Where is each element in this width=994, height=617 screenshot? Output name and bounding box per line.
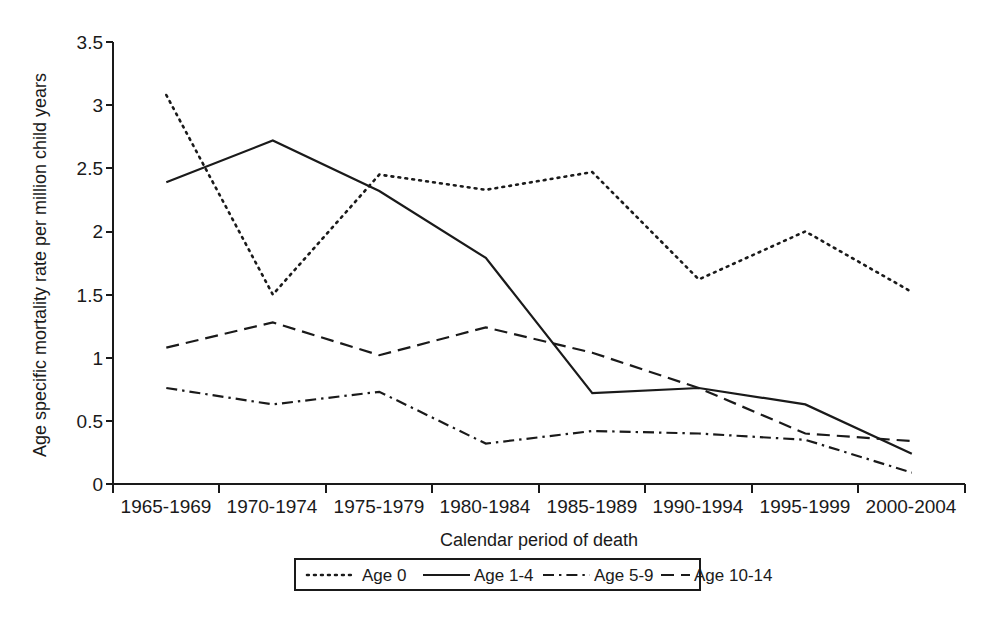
x-tick-label: 2000-2004 <box>866 496 957 517</box>
y-tick-label: 2 <box>92 221 103 242</box>
y-tick-label: 0 <box>92 474 103 495</box>
y-axis-ticks <box>106 42 113 484</box>
chart-figure: Age specific mortality rate per million … <box>0 0 994 617</box>
series-line-age-10-14 <box>166 322 912 441</box>
legend-label-age-5-9: Age 5-9 <box>594 566 654 585</box>
x-axis-tick-labels: 1965-1969 1970-1974 1975-1979 1980-1984 … <box>121 496 957 517</box>
x-tick-label: 1985-1989 <box>547 496 638 517</box>
x-tick-label: 1990-1994 <box>653 496 744 517</box>
y-tick-label: 1.5 <box>77 285 103 306</box>
series-lines <box>166 95 912 473</box>
legend-label-age-10-14: Age 10-14 <box>694 566 772 585</box>
y-tick-label: 2.5 <box>77 158 103 179</box>
x-tick-label: 1975-1979 <box>334 496 425 517</box>
y-tick-label: 0.5 <box>77 411 103 432</box>
x-axis-title: Calendar period of death <box>440 530 638 550</box>
series-line-age-0 <box>166 95 912 295</box>
y-tick-label: 3 <box>92 95 103 116</box>
x-tick-label: 1995-1999 <box>760 496 851 517</box>
x-tick-label: 1980-1984 <box>440 496 531 517</box>
y-tick-label: 1 <box>92 348 103 369</box>
y-axis-tick-labels: 3.5 3 2.5 2 1.5 1 0.5 0 <box>77 32 103 495</box>
x-axis-ticks <box>113 484 965 493</box>
x-tick-label: 1965-1969 <box>121 496 212 517</box>
chart-canvas: Age specific mortality rate per million … <box>0 0 994 617</box>
x-tick-label: 1970-1974 <box>227 496 318 517</box>
y-axis-title: Age specific mortality rate per million … <box>30 73 50 457</box>
chart-legend: Age 0 Age 1-4 Age 5-9 Age 10-14 <box>295 559 772 590</box>
y-tick-label: 3.5 <box>77 32 103 53</box>
legend-label-age-1-4: Age 1-4 <box>474 566 534 585</box>
series-line-age-1-4 <box>166 141 912 454</box>
legend-label-age-0: Age 0 <box>362 566 406 585</box>
